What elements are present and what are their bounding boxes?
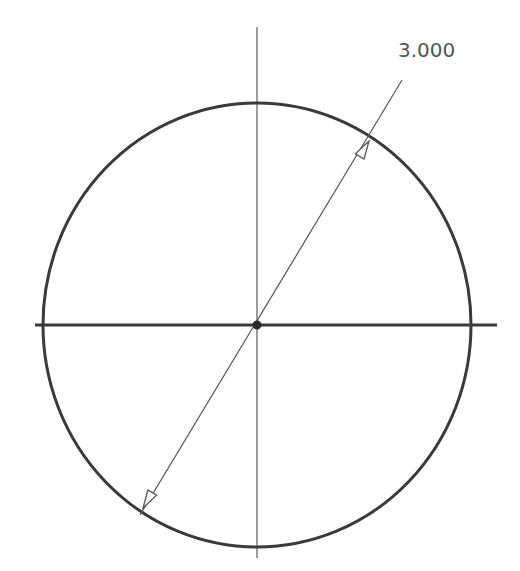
sketch-canvas[interactable]: 3.000 bbox=[0, 0, 520, 571]
diameter-dimension-label[interactable]: 3.000 bbox=[398, 38, 455, 62]
diameter-dimension-line[interactable] bbox=[140, 80, 402, 515]
dimension-arrowhead-lower-icon bbox=[139, 490, 157, 511]
center-point[interactable] bbox=[253, 321, 262, 330]
